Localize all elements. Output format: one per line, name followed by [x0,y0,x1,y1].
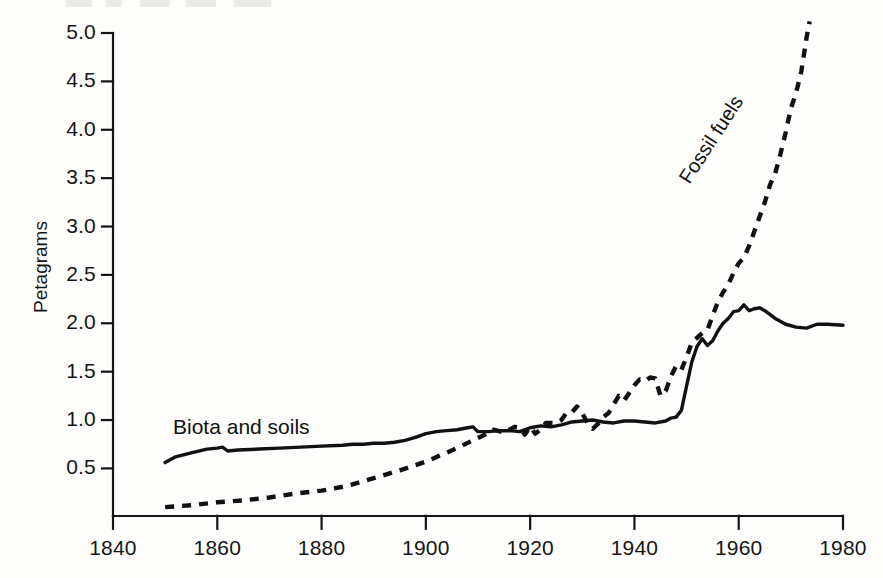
y-tick-label-1.5: 1.5 [38,359,96,383]
x-tick-label-1900: 1900 [381,536,471,560]
chart-figure: 0.51.01.52.02.53.03.54.04.55.0 184018601… [0,0,883,578]
x-tick-label-1960: 1960 [694,536,784,560]
y-tick-label-4.0: 4.0 [38,117,96,141]
x-tick-label-1940: 1940 [589,536,679,560]
x-tick-label-1880: 1880 [277,536,367,560]
x-tick-label-1840: 1840 [68,536,158,560]
y-tick-label-1.0: 1.0 [38,407,96,431]
y-tick-label-4.5: 4.5 [38,68,96,92]
x-axis-ticks [113,516,843,529]
y-tick-label-5.0: 5.0 [38,20,96,44]
x-tick-label-1980: 1980 [798,536,883,560]
x-tick-label-1860: 1860 [172,536,262,560]
y-axis-title: Petagrams [30,202,52,332]
x-tick-label-1920: 1920 [485,536,575,560]
y-axis-ticks [102,33,113,468]
chart-plot-area [0,0,883,578]
y-tick-label-3.5: 3.5 [38,165,96,189]
y-tick-label-0.5: 0.5 [38,455,96,479]
series-label-biota-and-soils: Biota and soils [173,415,310,439]
